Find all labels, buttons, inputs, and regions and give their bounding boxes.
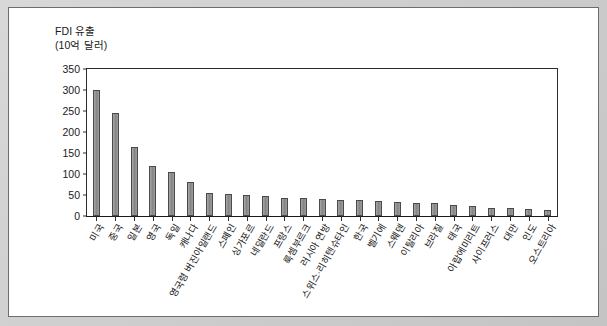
bar: [450, 205, 457, 216]
x-axis-tick-label: 영국: [147, 223, 165, 244]
x-axis-tick-label-text: 대만: [502, 222, 520, 243]
x-axis-tick-label-text: 영국: [145, 222, 163, 243]
bar: [149, 166, 156, 216]
bar: [507, 208, 514, 216]
x-axis-tick-mark: [472, 216, 473, 221]
bar: [206, 193, 213, 216]
x-axis-tick-label: 일본: [128, 223, 146, 244]
x-axis-tick-mark: [378, 216, 379, 221]
bar: [413, 203, 420, 216]
y-axis-tick-label: 300: [62, 84, 87, 96]
figure-panel: FDI 유출 (10억 달러) 050100150200250300350 미국…: [8, 7, 599, 317]
x-axis-tick-label: 중국: [109, 223, 127, 244]
bar: [375, 201, 382, 216]
y-axis-tick-label: 350: [62, 63, 87, 75]
axis-title-line1: FDI 유출: [55, 25, 107, 39]
x-axis-tick-mark: [134, 216, 135, 221]
x-axis-tick-mark: [397, 216, 398, 221]
x-axis-tick-label-text: 인도: [521, 222, 539, 243]
x-axis-tick-mark: [228, 216, 229, 221]
bar: [262, 196, 269, 216]
y-axis-tick-label: 0: [74, 210, 87, 222]
bar: [356, 200, 363, 216]
figure-outer-frame: FDI 유출 (10억 달러) 050100150200250300350 미국…: [0, 0, 607, 326]
bar: [225, 194, 232, 216]
chart-axis-title: FDI 유출 (10억 달러): [55, 25, 107, 52]
bar: [488, 208, 495, 216]
x-axis-tick-mark: [303, 216, 304, 221]
x-axis-tick-mark: [96, 216, 97, 221]
axis-title-line2: (10억 달러): [55, 39, 107, 53]
x-axis-tick-mark: [209, 216, 210, 221]
bar: [281, 198, 288, 216]
x-axis-tick-mark: [341, 216, 342, 221]
x-axis-tick-label: 대만: [504, 223, 522, 244]
y-axis-tick-label: 200: [62, 126, 87, 138]
x-axis-tick-label-text: 중국: [107, 222, 125, 243]
bar: [112, 113, 119, 216]
bar: [168, 172, 175, 216]
x-axis-tick-mark: [322, 216, 323, 221]
bar: [469, 206, 476, 216]
y-axis-tick-label: 250: [62, 105, 87, 117]
bar: [243, 195, 250, 216]
x-axis-tick-label-text: 일본: [126, 222, 144, 243]
bar: [394, 202, 401, 216]
bar-series: [87, 69, 557, 216]
bar: [525, 209, 532, 216]
plot-area: 050100150200250300350 미국중국일본영국독일캐나다영국령 버…: [86, 68, 558, 217]
y-axis-tick-label: 50: [68, 189, 87, 201]
x-axis-tick-mark: [510, 216, 511, 221]
y-axis-tick-label: 100: [62, 168, 87, 180]
x-axis-tick-mark: [416, 216, 417, 221]
bar: [300, 198, 307, 216]
bar: [131, 147, 138, 216]
x-axis-tick-mark: [491, 216, 492, 221]
bar: [431, 203, 438, 216]
bar: [319, 199, 326, 216]
x-axis-tick-mark: [190, 216, 191, 221]
x-axis-tick-mark: [115, 216, 116, 221]
bar: [187, 182, 194, 216]
y-axis-tick-label: 150: [62, 147, 87, 159]
bar: [93, 90, 100, 216]
bar: [337, 200, 344, 216]
x-axis-tick-mark: [284, 216, 285, 221]
x-axis-tick-label-text: 미국: [89, 222, 107, 243]
x-axis-tick-label: 미국: [90, 223, 108, 244]
